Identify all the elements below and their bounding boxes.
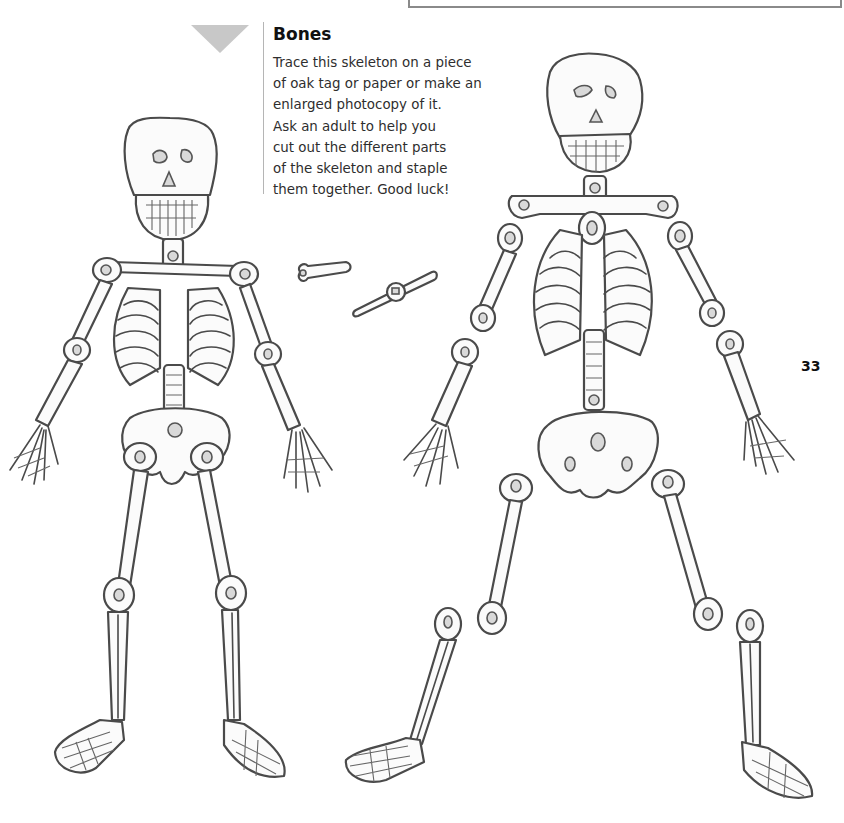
skull-icon [547, 54, 642, 172]
paper-fastener-side-icon [299, 262, 351, 281]
right-hand-icon [744, 416, 794, 474]
cutout-skeleton-illustration [346, 54, 812, 798]
right-foot-icon [224, 720, 285, 777]
paper-fastener-open-icon [353, 272, 437, 317]
right-hand-icon [284, 428, 332, 492]
assembled-skeleton-illustration [10, 118, 332, 777]
left-hand-icon [10, 425, 58, 484]
left-foot-icon [346, 738, 424, 782]
skull-icon [125, 118, 217, 240]
left-hand-icon [404, 424, 458, 486]
right-foot-icon [742, 742, 812, 798]
left-foot-icon [55, 720, 124, 772]
